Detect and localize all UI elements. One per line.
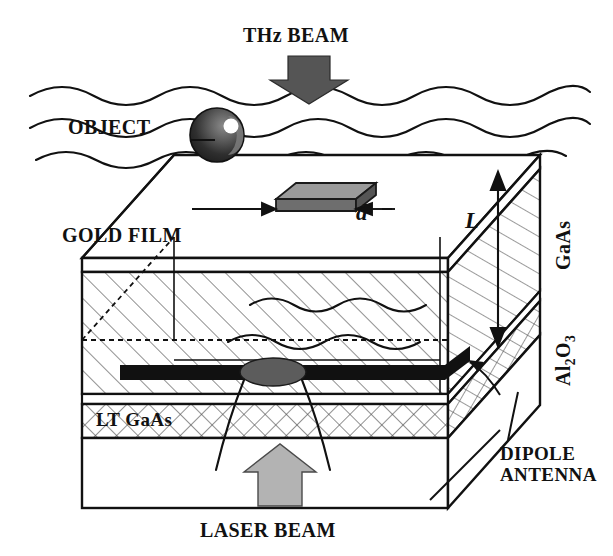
laser-beam-label: LASER BEAM [200,519,336,542]
object-label: OBJECT [68,116,150,139]
dimension-L-label: L [465,208,479,234]
dipole-antenna-line2: ANTENNA [500,464,597,485]
al2o3-al: Al [552,365,574,386]
laser-spot [240,358,306,386]
thz-device-figure: THz BEAM OBJECT GOLD FILM d L GaAs Al2O3… [0,0,613,556]
gold-film-label: GOLD FILM [62,224,182,247]
dimension-d-label: d [356,200,368,226]
al2o3-label: Al2O3 [552,335,579,386]
thz-beam-label: THz BEAM [243,24,349,47]
gaas-label: GaAs [552,221,575,270]
al2o3-sub-2: 2 [563,358,578,365]
object-sphere [190,108,244,162]
al2o3-sub-3: 3 [563,335,578,342]
lt-gaas-label: LT GaAs [96,409,172,431]
dipole-antenna-line1: DIPOLE [500,443,575,464]
al2o3-o: O [552,342,574,358]
dipole-antenna-label: DIPOLEANTENNA [500,443,597,486]
thz-beam-arrow [270,56,348,104]
